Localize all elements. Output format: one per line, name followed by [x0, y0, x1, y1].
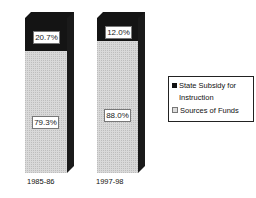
legend-swatch-subsidy — [172, 83, 177, 88]
label-1985-86-sources: 79.3% — [32, 116, 59, 129]
legend-swatch-sources — [172, 107, 178, 113]
legend-item-subsidy: State Subsidy for — [172, 81, 236, 90]
label-1997-98-subsidy: 12.0% — [105, 26, 132, 39]
legend-label-subsidy-line1: State Subsidy for — [179, 81, 236, 90]
label-1985-86-subsidy: 20.7% — [33, 31, 60, 44]
legend-item-subsidy-cont: Instruction — [179, 93, 214, 102]
legend-item-sources: Sources of Funds — [172, 106, 239, 115]
bar-1997-98: 12.0% 88.0% — [97, 12, 149, 177]
label-1997-98-sources: 88.0% — [104, 109, 131, 122]
x-label-1985-86: 1985-86 — [27, 177, 55, 186]
legend-label-subsidy-line2: Instruction — [179, 93, 214, 102]
x-label-1997-98: 1997-98 — [96, 177, 124, 186]
legend: State Subsidy for Instruction Sources of… — [168, 76, 254, 122]
bar-1985-86: 20.7% 79.3% — [25, 12, 77, 177]
legend-label-sources: Sources of Funds — [180, 106, 239, 115]
